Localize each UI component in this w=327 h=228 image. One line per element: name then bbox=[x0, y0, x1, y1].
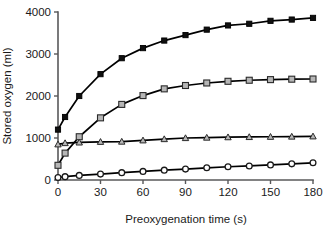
marker-filled-square bbox=[119, 56, 124, 61]
marker-open-circle bbox=[246, 163, 252, 169]
marker-filled-square bbox=[140, 46, 145, 51]
marker-open-circle bbox=[62, 174, 68, 180]
marker-open-circle bbox=[55, 175, 61, 181]
marker-open-circle bbox=[289, 161, 295, 167]
marker-filled-square bbox=[289, 17, 294, 22]
y-tick-label-3000: 3000 bbox=[25, 48, 51, 60]
marker-filled-square bbox=[55, 127, 60, 132]
marker-open-square bbox=[140, 93, 146, 99]
marker-open-square bbox=[310, 76, 316, 82]
y-tick-label-4000: 4000 bbox=[25, 6, 51, 18]
series-total-stored-oxygen bbox=[55, 15, 315, 132]
marker-filled-square bbox=[77, 93, 82, 98]
y-tick-label-0: 0 bbox=[45, 174, 51, 186]
marker-open-circle bbox=[119, 170, 125, 176]
marker-open-square bbox=[161, 86, 167, 92]
marker-filled-square bbox=[268, 18, 273, 23]
series-blood-stored-oxygen bbox=[55, 133, 316, 147]
y-tick-label-2000: 2000 bbox=[25, 90, 51, 102]
marker-filled-square bbox=[162, 38, 167, 43]
series-line-lung-stored-oxygen bbox=[58, 79, 313, 165]
marker-filled-square bbox=[247, 21, 252, 26]
x-tick-label-60: 60 bbox=[137, 186, 150, 198]
line-chart-canvas: 010002000300040000306090120150180 Preoxy… bbox=[0, 0, 327, 228]
marker-open-square bbox=[119, 101, 125, 107]
y-axis-title: Stored oxygen (ml) bbox=[1, 47, 13, 144]
series-tissue-stored-oxygen bbox=[55, 160, 316, 181]
marker-open-circle bbox=[98, 171, 104, 177]
marker-open-square bbox=[183, 83, 189, 89]
marker-open-circle bbox=[161, 167, 167, 173]
marker-open-square bbox=[204, 80, 210, 86]
marker-open-circle bbox=[204, 165, 210, 171]
marker-filled-square bbox=[310, 15, 315, 20]
marker-open-square bbox=[225, 78, 231, 84]
marker-filled-square bbox=[225, 23, 230, 28]
marker-open-circle bbox=[268, 162, 274, 168]
marker-open-square bbox=[289, 76, 295, 82]
marker-open-circle bbox=[183, 166, 189, 172]
x-tick-label-180: 180 bbox=[303, 186, 322, 198]
marker-open-square bbox=[62, 150, 68, 156]
chart-series bbox=[55, 15, 316, 180]
marker-filled-square bbox=[98, 72, 103, 77]
marker-open-square bbox=[246, 77, 252, 83]
marker-open-circle bbox=[310, 160, 316, 166]
x-axis-title: Preoxygenation time (s) bbox=[125, 213, 247, 225]
x-tick-label-0: 0 bbox=[55, 186, 61, 198]
x-tick-label-90: 90 bbox=[179, 186, 192, 198]
marker-open-square bbox=[55, 162, 61, 168]
marker-open-square bbox=[268, 77, 274, 83]
marker-filled-square bbox=[62, 114, 67, 119]
marker-open-circle bbox=[76, 172, 82, 178]
marker-open-circle bbox=[225, 164, 231, 170]
x-tick-label-30: 30 bbox=[94, 186, 107, 198]
marker-open-square bbox=[98, 115, 104, 121]
marker-filled-square bbox=[204, 27, 209, 32]
marker-filled-square bbox=[183, 33, 188, 38]
chart-figure: 010002000300040000306090120150180 Preoxy… bbox=[0, 0, 327, 228]
x-tick-label-150: 150 bbox=[261, 186, 280, 198]
series-lung-stored-oxygen bbox=[55, 76, 316, 168]
marker-open-circle bbox=[140, 168, 146, 174]
y-tick-label-1000: 1000 bbox=[25, 132, 51, 144]
x-tick-label-120: 120 bbox=[218, 186, 237, 198]
